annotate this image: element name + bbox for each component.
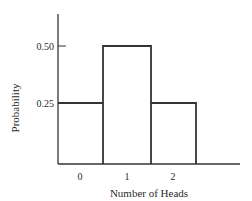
y-axis: 0.50 0.25 Probability	[9, 14, 66, 164]
bar-0	[58, 103, 103, 164]
x-axis-label: Number of Heads	[110, 187, 188, 199]
y-axis-label: Probability	[9, 83, 21, 132]
x-tick-1: 1	[125, 171, 130, 182]
probability-histogram: 0.50 0.25 Probability 0 1 2 Number of He…	[0, 0, 252, 201]
x-tick-0: 0	[78, 171, 83, 182]
bar-2	[151, 103, 196, 164]
x-tick-2: 2	[171, 171, 176, 182]
bars	[58, 46, 196, 164]
x-axis: 0 1 2 Number of Heads	[58, 164, 240, 199]
y-tick-050: 0.50	[37, 41, 55, 52]
y-tick-025: 0.25	[37, 98, 55, 109]
bar-1	[103, 46, 151, 164]
